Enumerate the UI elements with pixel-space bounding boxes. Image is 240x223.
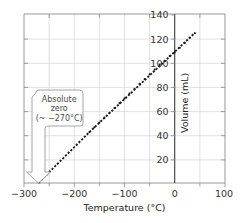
data-point <box>134 88 136 90</box>
data-point <box>113 107 115 109</box>
data-point <box>118 102 120 104</box>
ytick-label-140: 140 <box>150 9 168 20</box>
data-point <box>159 64 161 66</box>
chart-figure: 140 120 100 80 60 40 20 Volume (mL) −300… <box>0 0 240 223</box>
data-point <box>93 126 95 128</box>
xtick-label-0: 0 <box>172 188 178 199</box>
ytick-label-120: 120 <box>150 34 168 45</box>
ytick-label-40: 40 <box>156 130 168 141</box>
data-point <box>179 47 181 49</box>
callout-line-1: Absolute <box>42 95 77 104</box>
x-tick-labels: −300 −200 −100 0 100 <box>11 188 233 199</box>
data-point <box>194 32 196 34</box>
data-point <box>154 68 156 70</box>
data-point <box>174 51 176 53</box>
data-point <box>169 55 171 57</box>
xtick-label-minus100: −100 <box>111 188 137 199</box>
xtick-label-100: 100 <box>215 188 233 199</box>
ytick-label-80: 80 <box>156 82 168 93</box>
volume-axis <box>171 14 175 183</box>
data-point <box>123 97 125 99</box>
data-point <box>164 60 166 62</box>
callout-line-3: (~ −270°C) <box>36 114 83 123</box>
data-point <box>139 83 141 85</box>
data-point <box>98 121 100 123</box>
ytick-label-60: 60 <box>156 106 168 117</box>
data-point <box>103 117 105 119</box>
data-point <box>88 131 90 133</box>
data-point <box>149 73 151 75</box>
xtick-label-minus300: −300 <box>11 188 37 199</box>
xtick-label-minus200: −200 <box>61 188 87 199</box>
data-point <box>128 93 130 95</box>
data-point <box>189 37 191 39</box>
data-point <box>108 112 110 114</box>
y-axis-title: Volume (mL) <box>179 73 190 133</box>
callout-line-2: zero <box>51 104 68 113</box>
x-axis-title: Temperature (°C) <box>83 202 166 213</box>
data-point <box>144 78 146 80</box>
data-point <box>184 42 186 44</box>
ytick-label-20: 20 <box>156 154 168 165</box>
volume-temperature-chart: 140 120 100 80 60 40 20 Volume (mL) −300… <box>0 0 240 223</box>
